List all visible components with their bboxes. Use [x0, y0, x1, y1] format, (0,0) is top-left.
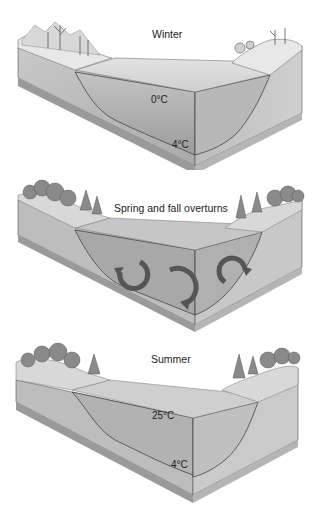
lake-block-summer	[0, 340, 318, 513]
temp-bottom-winter: 4°C	[172, 139, 189, 150]
panel-summer: Summer 25°C 4°C	[0, 340, 318, 513]
panel-title-overturn: Spring and fall overturns	[114, 202, 228, 214]
panel-title-summer: Summer	[151, 353, 191, 365]
panel-title-winter: Winter	[152, 28, 182, 40]
panel-overturn: Spring and fall overturns	[0, 170, 318, 340]
lake-block-overturn	[0, 170, 318, 340]
panel-winter: Winter 0°C 4°C	[0, 0, 318, 170]
temp-surface-winter: 0°C	[151, 94, 168, 105]
lake-block-winter	[0, 0, 318, 170]
temp-surface-summer: 25°C	[152, 410, 174, 421]
temp-bottom-summer: 4°C	[171, 459, 188, 470]
